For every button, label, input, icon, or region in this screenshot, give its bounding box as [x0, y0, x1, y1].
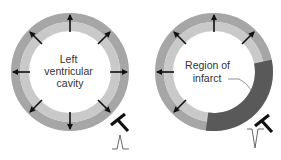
inverted-ecg-wave-icon	[247, 129, 264, 148]
infarct-label: Region of infarct	[185, 59, 233, 84]
infarct-ventricle-panel: Region of infarct	[157, 15, 273, 148]
upright-ecg-wave-icon	[112, 135, 129, 149]
electrode-icon	[111, 114, 128, 131]
cavity-label: Left ventricular cavity	[44, 53, 95, 89]
diagram-canvas: Left ventricular cavity Region of infarc…	[0, 0, 281, 160]
infarct-leader-line	[228, 79, 252, 91]
normal-ventricle-panel: Left ventricular cavity	[13, 15, 129, 149]
